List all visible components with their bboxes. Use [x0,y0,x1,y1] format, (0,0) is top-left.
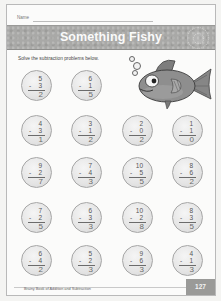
problem-14: 8 - 3 5 [172,202,203,233]
minuend: 8 [183,162,193,169]
answer[interactable]: 3 [83,265,93,274]
problem-8: 7 - 4 3 [71,157,102,188]
answer[interactable]: 5 [33,222,43,231]
minuend: 2 [133,120,143,127]
problem-13: 10 - 2 8 [122,202,153,233]
subtrahend: 2 [32,169,42,176]
minus-sign: - [130,127,132,134]
answer[interactable]: 5 [83,90,93,99]
subtrahend: 1 [82,82,92,89]
book-title: Brainy Book of Addition and Subtraction [24,287,91,291]
problem-3: 4 - 3 1 [21,115,52,146]
answer[interactable]: 3 [83,177,93,186]
minuend: 10 [133,207,143,214]
subtrahend: 2 [82,257,92,264]
answer[interactable]: 2 [134,135,144,144]
subtrahend: 0 [133,127,143,134]
minus-sign: - [29,169,31,176]
answer[interactable]: 2 [83,135,93,144]
minus-sign: - [180,127,182,134]
minus-sign: - [180,257,182,264]
minus-sign: - [180,214,182,221]
problem-12: 6 - 3 3 [71,202,102,233]
subtrahend: 1 [183,127,193,134]
minus-sign: - [79,169,81,176]
problem-2: 6 - 1 5 [71,70,102,101]
subtrahend: 3 [32,82,42,89]
answer[interactable]: 3 [134,265,144,274]
answer[interactable]: 2 [184,177,194,186]
minus-sign: - [29,257,31,264]
problem-11: 7 - 2 5 [21,202,52,233]
minuend: 3 [82,120,92,127]
subtrahend: 3 [183,214,193,221]
subtrahend: 6 [183,169,193,176]
subtrahend: 1 [183,257,193,264]
subtrahend: 3 [82,214,92,221]
minus-sign: - [79,257,81,264]
answer[interactable]: 2 [33,90,43,99]
answer[interactable]: 7 [33,177,43,186]
subtrahend: 4 [32,257,42,264]
answer[interactable]: 5 [134,177,144,186]
subtrahend: 6 [133,257,143,264]
problem-5: 2 - 0 2 [122,115,153,146]
minus-sign: - [79,82,81,89]
answer[interactable]: 1 [33,135,43,144]
minuend: 6 [82,207,92,214]
answer[interactable]: 8 [134,222,144,231]
minus-sign: - [79,214,81,221]
minuend: 9 [32,162,42,169]
problem-9: 10 - 5 5 [122,157,153,188]
minuend: 7 [82,162,92,169]
minus-sign: - [29,214,31,221]
minuend: 1 [183,120,193,127]
answer[interactable]: 0 [184,135,194,144]
problem-10: 8 - 6 2 [172,157,203,188]
problem-15: 6 - 4 2 [21,245,52,276]
minus-sign: - [130,169,132,176]
problem-6: 1 - 1 0 [172,115,203,146]
worksheet-page: Name Something Fishy Solve the subtracti… [6,4,216,296]
answer[interactable]: 3 [83,222,93,231]
minus-sign: - [29,127,31,134]
problem-7: 9 - 2 7 [21,157,52,188]
problem-4: 3 - 1 2 [71,115,102,146]
minus-sign: - [130,214,132,221]
problem-17: 9 - 6 3 [122,245,153,276]
minus-sign: - [180,169,182,176]
subtrahend: 3 [32,127,42,134]
subtrahend: 1 [82,127,92,134]
minuend: 5 [82,250,92,257]
minuend: 6 [82,75,92,82]
minuend: 9 [133,250,143,257]
answer[interactable]: 3 [184,265,194,274]
subtrahend: 2 [32,214,42,221]
minuend: 7 [32,207,42,214]
minus-sign: - [130,257,132,264]
minus-sign: - [79,127,81,134]
problem-1: 5 - 3 2 [21,70,52,101]
minuend: 5 [32,75,42,82]
problem-grid: 5 - 3 2 6 - 1 5 4 - 3 1 3 - 1 2 [7,5,215,297]
page-number: 127 [186,279,215,295]
problem-18: 4 - 1 3 [172,245,203,276]
problem-16: 5 - 2 3 [71,245,102,276]
answer[interactable]: 2 [33,265,43,274]
minus-sign: - [29,82,31,89]
subtrahend: 4 [82,169,92,176]
minuend: 10 [133,162,143,169]
minuend: 4 [32,120,42,127]
minuend: 6 [32,250,42,257]
minuend: 4 [183,250,193,257]
answer[interactable]: 5 [184,222,194,231]
minuend: 8 [183,207,193,214]
subtrahend: 2 [133,214,143,221]
subtrahend: 5 [133,169,143,176]
